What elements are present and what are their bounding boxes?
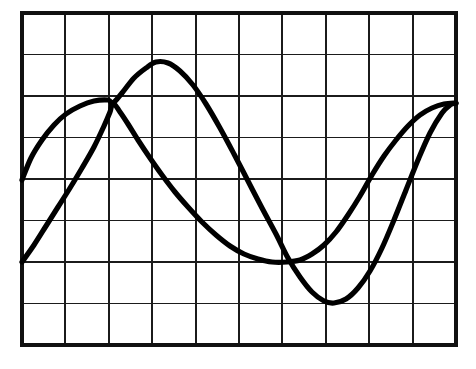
waveform-chart [0,0,476,369]
waveform-figure [0,0,476,369]
